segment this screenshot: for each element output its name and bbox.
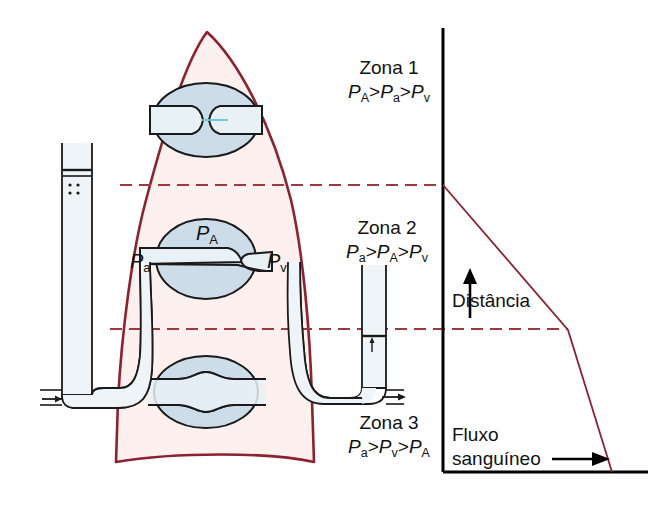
arterial-inflow-arrow — [42, 396, 62, 403]
zone2-formula: Pa>PA>Pv — [328, 241, 446, 265]
west-zones-figure: Zona 1 PA>Pa>Pv Zona 2 Pa>PA>Pv Zona 3 P… — [0, 0, 667, 508]
zone2-formula-text: Pa>PA>Pv — [346, 241, 428, 262]
flow-axis-label-line1: Fluxo — [452, 424, 498, 447]
distance-axis-label: Distância — [452, 290, 530, 311]
arterial-pressure-label: Pa — [130, 250, 151, 275]
zone1-title: Zona 1 — [330, 57, 448, 78]
zone3-formula: Pa>Pv>PA — [330, 436, 448, 460]
zone1-formula: PA>Pa>Pv — [330, 81, 448, 105]
flow-axis-arrow — [552, 452, 610, 466]
alveolar-pressure-label: PA — [196, 222, 218, 247]
venous-pressure-label: Pv — [267, 250, 287, 275]
flow-axis-label-line2: sanguíneo — [452, 448, 541, 471]
zone2-title: Zona 2 — [328, 217, 446, 238]
alveolus-zone1 — [150, 83, 262, 157]
zone3-title: Zona 3 — [330, 412, 448, 433]
zone1-formula-text: PA>Pa>Pv — [348, 81, 430, 102]
graph-axes — [443, 28, 648, 472]
zone3-formula-text: Pa>Pv>PA — [348, 436, 430, 457]
